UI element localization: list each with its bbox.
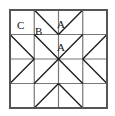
patch-label-a-r1c2: A	[57, 42, 65, 53]
diagonal-right-arrow-lower	[83, 59, 107, 84]
diagonal-right-arrow-upper	[83, 35, 107, 60]
quilt-block-diagram: CBAA	[0, 0, 115, 116]
diagonal-left-arrow-upper	[10, 35, 34, 60]
patch-label-a-r0c2: A	[57, 19, 65, 30]
diagonal-bottom-peak-right	[59, 84, 83, 109]
patch-label-c-r0c0: C	[17, 20, 24, 31]
patch-label-b-r0c1: B	[35, 26, 42, 37]
diagonal-left-arrow-lower	[10, 59, 34, 84]
diagonal-bottom-peak-left	[34, 84, 58, 109]
